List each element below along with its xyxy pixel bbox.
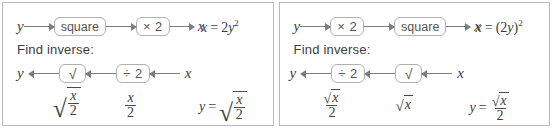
inverse-chain-left: y √ ÷ 2 x [17, 64, 192, 83]
equation-exponent: 2 [234, 18, 239, 28]
figure-container: y square × 2 x x=2y2 Find inverse: y √ ÷… [0, 0, 552, 130]
fraction-numerator: √ x [490, 92, 511, 108]
inverse-output-label: y [290, 66, 297, 81]
machine-box-square[interactable]: square [54, 17, 106, 36]
machine-box-divide-2[interactable]: ÷ 2 [116, 64, 149, 83]
equation-open-paren: (2 [496, 20, 508, 35]
panel-right: y × 2 square x x=(2y)2 Find inverse: y ÷… [279, 2, 551, 126]
arrow-right-icon [364, 22, 394, 31]
machine-box-sqrt[interactable]: √ [395, 64, 423, 83]
answer-equation-left: y = √ x 2 [199, 91, 247, 123]
inverse-input-label: x [457, 66, 464, 81]
forward-equation-right: x=(2y)2 [476, 19, 523, 35]
arrow-left-icon [422, 69, 452, 78]
inverse-output-label: y [17, 66, 24, 81]
intermediate-expression-1-right: √ x 2 [322, 89, 343, 121]
radical-icon: √ x 2 [219, 91, 247, 123]
intermediate-expression-2-right: √ x [396, 95, 413, 113]
arrow-right-icon [300, 22, 330, 31]
arrow-left-icon [365, 69, 395, 78]
answer-equals: = [208, 100, 216, 114]
prompt-find-inverse-left: Find inverse: [17, 42, 94, 57]
equation-equals: = [485, 20, 493, 35]
radicand: x [332, 91, 338, 105]
machine-box-square[interactable]: square [394, 17, 446, 36]
equation-lhs: x [476, 20, 482, 35]
forward-input-label: y [294, 19, 301, 34]
arrow-right-icon [24, 22, 54, 31]
machine-box-divide-2[interactable]: ÷ 2 [331, 64, 364, 83]
answer-equation-right: y = √ x 2 [470, 92, 511, 124]
arrow-left-icon [86, 69, 116, 78]
radical-icon: √ x [492, 92, 509, 108]
prompt-find-inverse-right: Find inverse: [294, 42, 371, 57]
equation-equals: = [210, 20, 218, 35]
arrow-left-icon [29, 69, 59, 78]
radicand: x [500, 94, 506, 108]
inverse-input-label: x [185, 66, 192, 81]
fraction-denominator: 2 [125, 105, 136, 120]
arrow-right-icon [170, 22, 194, 31]
radical-icon: √ x [396, 95, 413, 113]
arrow-right-icon [446, 22, 470, 31]
machine-box-times-2[interactable]: × 2 [330, 17, 364, 36]
forward-chain-left: y square × 2 x [17, 17, 205, 36]
machine-box-times-2[interactable]: × 2 [136, 17, 170, 36]
radical-icon: √ x [324, 89, 341, 105]
fraction-numerator: √ x [322, 89, 343, 105]
fraction-denominator: 2 [326, 105, 337, 120]
fraction-denominator: 2 [68, 103, 79, 118]
answer-lhs: y [470, 100, 476, 116]
fraction-numerator: x [125, 91, 135, 105]
radical-icon: √ x 2 [53, 87, 81, 119]
answer-equals: = [479, 101, 487, 115]
fraction-numerator: x [234, 93, 244, 107]
arrow-left-icon [150, 69, 180, 78]
forward-equation-left: x=2y2 [201, 19, 239, 35]
forward-input-label: y [17, 19, 24, 34]
fraction-denominator: 2 [495, 108, 506, 123]
intermediate-expression-2-left: x 2 [125, 91, 136, 121]
fraction-denominator: 2 [234, 107, 245, 122]
arrow-right-icon [106, 22, 136, 31]
equation-lhs: x [201, 20, 207, 35]
forward-chain-right: y × 2 square x [294, 17, 482, 36]
fraction-numerator: x [68, 89, 78, 103]
arrow-left-icon [301, 69, 331, 78]
radicand: x [405, 97, 411, 113]
answer-lhs: y [199, 99, 205, 115]
panel-left: y square × 2 x x=2y2 Find inverse: y √ ÷… [2, 2, 274, 126]
intermediate-expression-1-left: √ x 2 [53, 87, 81, 119]
equation-exponent: 2 [518, 18, 523, 28]
inverse-chain-right: y ÷ 2 √ x [290, 64, 465, 83]
machine-box-sqrt[interactable]: √ [59, 64, 87, 83]
